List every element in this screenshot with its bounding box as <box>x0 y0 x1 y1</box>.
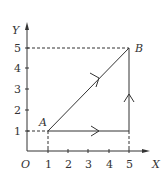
diagram-canvas: Y X O 1 2 3 4 5 1 2 3 4 5 A B <box>0 0 167 179</box>
point-a-label: A <box>38 116 47 129</box>
x-tick-label: 3 <box>85 158 92 171</box>
y-axis-arrow-icon <box>25 22 29 30</box>
x-tick-label: 2 <box>65 158 72 171</box>
y-tick-label: 2 <box>14 104 21 117</box>
y-tick-label: 4 <box>14 62 21 75</box>
point-b-label: B <box>134 42 143 55</box>
y-tick-label: 3 <box>14 83 21 96</box>
y-tick-label: 1 <box>14 125 21 138</box>
x-tick-label: 1 <box>45 158 52 171</box>
origin-label: O <box>21 158 30 171</box>
x-axis-arrow-icon <box>142 149 150 153</box>
x-tick-label: 5 <box>126 158 133 171</box>
y-tick-label: 5 <box>14 42 21 55</box>
path-direct <box>48 48 129 131</box>
x-tick-label: 4 <box>106 158 113 171</box>
x-axis-label: X <box>151 158 161 171</box>
y-axis-label: Y <box>12 24 21 37</box>
